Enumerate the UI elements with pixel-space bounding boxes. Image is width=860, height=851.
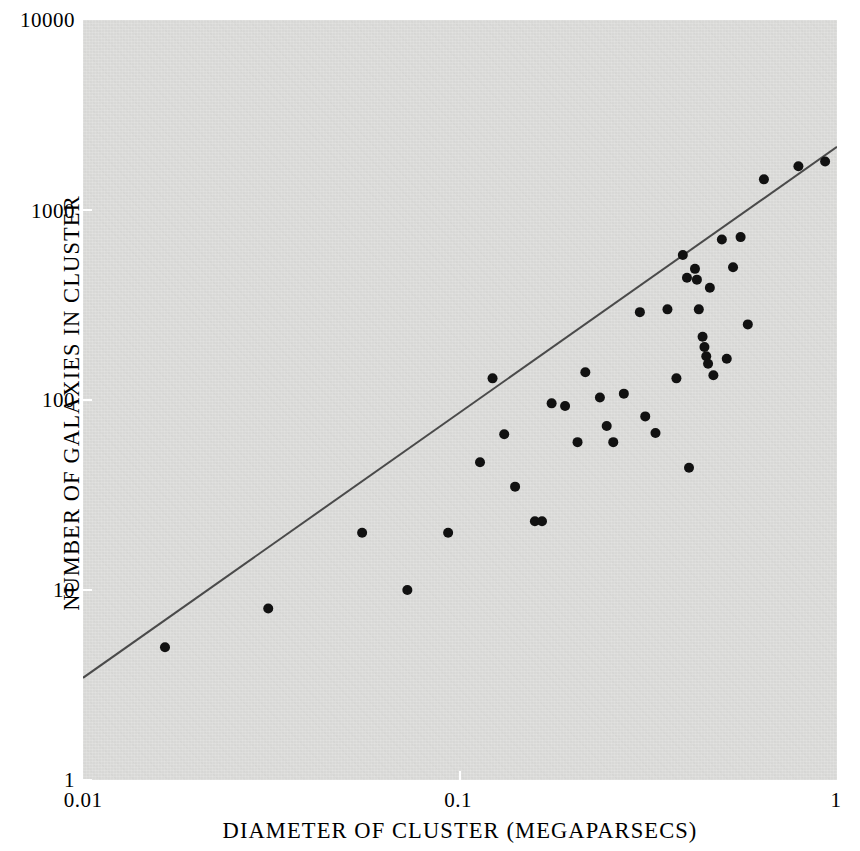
data-point-marker — [547, 398, 557, 408]
data-point-marker — [499, 429, 509, 439]
scatter-plot-canvas — [83, 20, 837, 780]
data-point-marker — [694, 304, 704, 314]
data-point-marker — [608, 437, 618, 447]
x-tick-label-1: 1 — [796, 790, 860, 811]
y-tick-label-10000: 10000 — [0, 10, 75, 31]
data-point-marker — [703, 359, 713, 369]
data-point-marker — [560, 401, 570, 411]
x-axis-tickmark — [836, 771, 838, 780]
data-point-marker — [475, 457, 485, 467]
x-tick-label-0-1: 0.1 — [418, 790, 498, 811]
data-point-marker — [602, 421, 612, 431]
data-point-marker — [263, 603, 273, 613]
data-point-marker — [573, 437, 583, 447]
data-point-marker — [635, 307, 645, 317]
plot-panel — [83, 20, 837, 780]
y-axis-title: NUMBER OF GALAXIES IN CLUSTER — [59, 103, 85, 703]
y-axis-tickmark — [83, 589, 92, 591]
data-point-marker — [357, 528, 367, 538]
data-point-marker — [402, 585, 412, 595]
x-axis-title: DIAMETER OF CLUSTER (MEGAPARSECS) — [83, 818, 837, 844]
reference-line — [83, 147, 837, 678]
x-tick-label-0-01: 0.01 — [43, 790, 123, 811]
data-point-marker — [488, 373, 498, 383]
data-point-marker — [728, 262, 738, 272]
y-axis-tickmark — [83, 19, 92, 21]
data-point-marker — [699, 342, 709, 352]
data-point-marker — [682, 273, 692, 283]
x-axis-tickmark — [82, 771, 84, 780]
y-axis-tickmark — [83, 399, 92, 401]
data-point-marker — [690, 264, 700, 274]
data-point-marker — [678, 250, 688, 260]
data-point-marker — [722, 354, 732, 364]
data-point-marker — [793, 161, 803, 171]
data-point-marker — [650, 428, 660, 438]
data-point-marker — [619, 389, 629, 399]
data-point-marker — [510, 482, 520, 492]
y-axis-tickmark — [83, 779, 92, 781]
data-point-marker — [443, 528, 453, 538]
data-point-marker — [671, 373, 681, 383]
data-point-marker — [708, 370, 718, 380]
x-axis-tickmark — [459, 771, 461, 780]
data-point-marker — [717, 234, 727, 244]
data-point-marker — [662, 304, 672, 314]
data-point-marker — [743, 319, 753, 329]
data-point-marker — [692, 275, 702, 285]
data-point-marker — [537, 516, 547, 526]
y-axis-tickmark — [83, 209, 92, 211]
data-point-marker — [705, 283, 715, 293]
data-point-marker — [736, 232, 746, 242]
data-point-marker — [759, 174, 769, 184]
figure-container: 10000 1000 100 10 1 0.01 0.1 1 DIAMETER … — [0, 0, 860, 851]
data-point-marker — [698, 332, 708, 342]
data-point-marker — [640, 411, 650, 421]
data-point-marker — [595, 393, 605, 403]
data-point-marker — [580, 367, 590, 377]
data-point-marker — [160, 642, 170, 652]
data-point-marker — [820, 156, 830, 166]
data-point-marker — [684, 463, 694, 473]
